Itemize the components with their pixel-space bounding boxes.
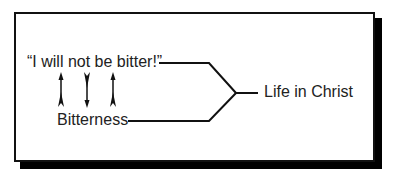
bitterness-label: Bitterness (57, 111, 128, 129)
life-in-christ-label: Life in Christ (264, 83, 353, 101)
quote-label: “I will not be bitter!” (27, 53, 162, 71)
